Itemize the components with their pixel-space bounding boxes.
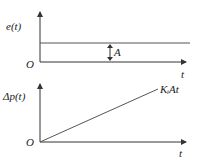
amplitude-arrow-up-icon <box>107 44 113 48</box>
bottom-y-label: Δp(t) <box>2 90 26 103</box>
top-x-label: t <box>181 68 185 80</box>
ramp-label: KᵢAt <box>159 83 180 95</box>
bottom-plot: Δp(t) KᵢAt O t <box>2 83 186 159</box>
diagram: e(t) A O t Δp(t) KᵢAt O t <box>0 0 197 162</box>
bottom-x-label: t <box>179 147 183 159</box>
bottom-origin-label: O <box>26 136 34 148</box>
top-y-label: e(t) <box>6 20 22 33</box>
amplitude-arrow-down-icon <box>107 57 113 61</box>
top-origin-label: O <box>26 58 34 70</box>
ramp-line <box>40 89 158 142</box>
amplitude-label: A <box>113 46 121 58</box>
top-plot: e(t) A O t <box>6 12 190 80</box>
